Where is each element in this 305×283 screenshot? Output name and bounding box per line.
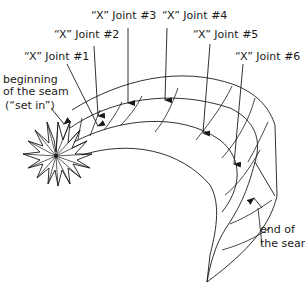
- label-end-line1: end of: [260, 224, 295, 236]
- arrow-joint-4: [165, 28, 167, 100]
- label-beginning-line3: (“set in”): [5, 100, 55, 112]
- label-joint-3: “X” Joint #3: [91, 10, 156, 22]
- arrow-joint-5: [203, 44, 210, 133]
- label-joint-4: “X” Joint #4: [162, 10, 227, 22]
- arrow-joint-2: [94, 46, 98, 116]
- label-end-line2: the seam: [260, 238, 305, 250]
- arrow-end: [254, 198, 262, 208]
- arrow-joint-1: [67, 64, 98, 126]
- label-joint-5: “X” Joint #5: [193, 29, 258, 41]
- arrow-joint-6: [234, 64, 243, 164]
- seam-ribs: [78, 86, 272, 250]
- label-joint-1: “X” Joint #1: [24, 51, 89, 63]
- rosette-icon: [23, 122, 92, 186]
- label-beginning-line2: of the seam: [3, 86, 69, 98]
- seam-diagram: “X” Joint #1 “X” Joint #2 “X” Joint #3 “…: [0, 0, 305, 283]
- seam-band: [70, 76, 277, 282]
- label-joint-2: “X” Joint #2: [54, 29, 119, 41]
- label-joint-6: “X” Joint #6: [235, 51, 300, 63]
